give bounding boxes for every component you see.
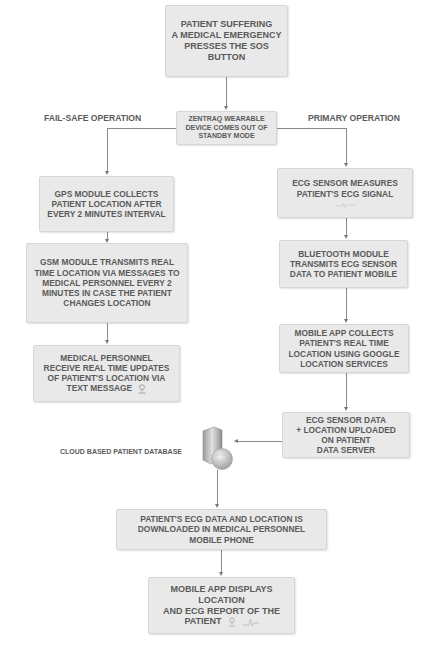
node-text: DATA TO PATIENT MOBILE: [290, 269, 397, 279]
node-text: DEVICE COMES OUT OF: [185, 124, 267, 133]
node-text: LOCATION USING GOOGLE: [288, 349, 399, 359]
connector-gsm-to-medical: [107, 323, 108, 341]
database-label: CLOUD BASED PATIENT DATABASE: [60, 448, 182, 455]
node-text: AND ECG REPORT OF THE: [163, 606, 280, 617]
node-text-with-icons: PATIENT: [184, 616, 258, 627]
node-text: MOBILE PHONE: [189, 535, 254, 545]
node-text: OF PATIENT'S LOCATION VIA: [48, 373, 166, 383]
node-text: PATIENT SUFFERING: [181, 19, 273, 30]
arrow-head: [234, 439, 238, 443]
arrow-head: [215, 504, 219, 508]
connector-failsafe-down: [107, 128, 108, 172]
node-text: PATIENT'S REAL TIME: [299, 338, 388, 348]
node-device-wake: ZENTRAQ WEARABLE DEVICE COMES OUT OF STA…: [176, 111, 277, 145]
branch-label-primary: PRIMARY OPERATION: [308, 113, 400, 123]
node-data-downloaded: PATIENT'S ECG DATA AND LOCATION IS DOWNL…: [116, 509, 327, 550]
node-text: MEDICAL PERSONNEL: [60, 353, 152, 363]
node-text: MOBILE APP COLLECTS: [294, 328, 393, 338]
node-text: + LOCATION UPLOADED: [296, 425, 396, 435]
node-text: ECG SENSOR MEASURES: [292, 178, 398, 188]
node-text: ECG SENSOR DATA: [306, 415, 386, 425]
node-text: STANDBY MODE: [198, 132, 254, 141]
node-text: MINUTES IN CASE THE PATIENT: [42, 288, 172, 298]
arrow-head: [219, 572, 223, 576]
node-app-displays-report: MOBILE APP DISPLAYS LOCATION AND ECG REP…: [148, 577, 295, 634]
ecg-wave-icon: [243, 617, 259, 627]
connector-database-to-download: [217, 470, 218, 505]
node-text-with-icon: TEXT MESSAGE: [67, 383, 147, 394]
node-text: PATIENT'S ECG DATA AND LOCATION IS: [140, 514, 303, 524]
node-data-uploaded: ECG SENSOR DATA + LOCATION UPLOADED ON P…: [282, 412, 410, 458]
node-text: BLUETOOTH MODULE: [298, 249, 389, 259]
connector-ecg-to-bluetooth: [346, 218, 347, 236]
location-pin-icon: [138, 384, 146, 394]
arrow-head: [344, 319, 348, 323]
node-text: RECEIVE REAL TIME UPDATES: [44, 363, 170, 373]
ecg-wave-icon: [335, 202, 355, 208]
arrow-head: [344, 235, 348, 239]
cloud-server-icon: [200, 426, 234, 472]
node-text: EVERY 2 MINUTES INTERVAL: [47, 209, 165, 219]
node-gps-collects: GPS MODULE COLLECTS PATIENT LOCATION AFT…: [39, 176, 174, 232]
node-text: BUTTON: [208, 52, 245, 63]
node-text: LOCATION SERVICES: [300, 359, 388, 369]
connector-start-to-device: [226, 77, 227, 107]
node-text: PATIENT'S ECG SIGNAL: [297, 189, 394, 199]
location-pin-icon: [228, 617, 236, 627]
node-text: TIME LOCATION VIA MESSAGES TO: [34, 268, 179, 278]
connector-primary-down: [346, 128, 347, 164]
arrow-head: [105, 171, 109, 175]
node-text: GSM MODULE TRANSMITS REAL: [40, 257, 174, 267]
node-text: DOWNLOADED IN MEDICAL PERSONNEL: [138, 524, 305, 534]
node-mobile-app-collects: MOBILE APP COLLECTS PATIENT'S REAL TIME …: [279, 324, 409, 373]
arrow-head: [224, 106, 228, 110]
connector-device-to-primary: [277, 128, 347, 129]
connector-device-to-failsafe: [107, 128, 176, 129]
node-text: GPS MODULE COLLECTS: [55, 189, 159, 199]
node-text: TRANSMITS ECG SENSOR: [290, 259, 397, 269]
node-sos-button-pressed: PATIENT SUFFERING A MEDICAL EMERGENCY PR…: [165, 5, 288, 77]
connector-upload-to-database: [238, 441, 282, 442]
node-ecg-measures: ECG SENSOR MEASURES PATIENT'S ECG SIGNAL: [277, 168, 413, 218]
node-medical-receives-updates: MEDICAL PERSONNEL RECEIVE REAL TIME UPDA…: [33, 345, 180, 402]
node-gsm-transmits: GSM MODULE TRANSMITS REAL TIME LOCATION …: [26, 243, 188, 323]
node-text: ZENTRAQ WEARABLE: [188, 115, 264, 124]
node-text: PATIENT: [184, 616, 221, 626]
node-text: PRESSES THE SOS: [184, 41, 269, 52]
connector-download-to-final: [221, 550, 222, 573]
node-text: LOCATION: [198, 595, 244, 606]
connector-bluetooth-to-app: [346, 288, 347, 320]
arrow-head: [344, 407, 348, 411]
node-text: CHANGES LOCATION: [63, 298, 150, 308]
branch-label-failsafe: FAIL-SAFE OPERATION: [44, 113, 141, 123]
node-text: TEXT MESSAGE: [67, 383, 133, 393]
node-text: DATA SERVER: [317, 445, 375, 455]
arrow-head: [344, 163, 348, 167]
node-text: PATIENT LOCATION AFTER: [52, 199, 162, 209]
node-bluetooth-transmits: BLUETOOTH MODULE TRANSMITS ECG SENSOR DA…: [279, 240, 408, 288]
connector-app-to-upload: [346, 373, 347, 408]
node-text: MEDICAL PERSONNEL EVERY 2: [42, 278, 172, 288]
node-text: ON PATIENT: [321, 435, 370, 445]
arrow-head: [105, 340, 109, 344]
node-text: MOBILE APP DISPLAYS: [170, 584, 272, 595]
node-text: A MEDICAL EMERGENCY: [171, 30, 281, 41]
